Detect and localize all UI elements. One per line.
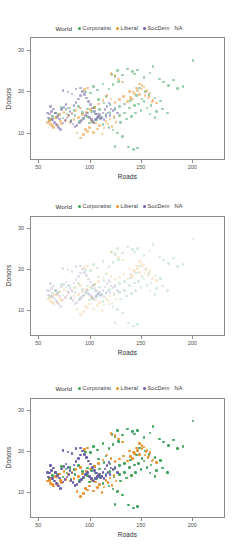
data-point-corporatist (112, 443, 115, 446)
data-point-socdem (80, 296, 83, 299)
data-point-liberal (132, 91, 135, 94)
legend-entry-corporatist[interactable]: Corporatist (78, 25, 111, 31)
data-point-liberal (107, 481, 110, 484)
data-point-corporatist (70, 296, 73, 299)
data-point-socdem (75, 88, 78, 91)
legend-entry-corporatist[interactable]: Corporatist (78, 203, 111, 209)
data-point-socdem (73, 104, 76, 107)
data-point-liberal (51, 301, 54, 304)
data-point-corporatist (121, 494, 124, 497)
data-point-corporatist (74, 291, 77, 294)
data-point-corporatist (94, 113, 97, 116)
legend-entry-label: SocDem (147, 25, 169, 31)
data-point-liberal (93, 465, 96, 468)
legend-entry-liberal[interactable]: Liberal (116, 25, 138, 31)
data-point-socdem (67, 451, 70, 454)
data-point-corporatist (116, 490, 119, 493)
data-point-corporatist (176, 87, 179, 90)
data-point-corporatist (69, 466, 72, 469)
data-point-corporatist (131, 430, 134, 433)
scatter-panel-2: WorldCorporatistLiberalSocDemNA102030501… (0, 185, 238, 365)
data-point-liberal (152, 99, 155, 102)
data-point-corporatist (111, 73, 114, 76)
data-point-liberal (117, 256, 120, 259)
data-point-corporatist (141, 457, 144, 460)
data-point-corporatist (82, 295, 85, 298)
data-point-corporatist (48, 477, 51, 480)
data-point-socdem (86, 112, 89, 115)
data-point-corporatist (136, 69, 139, 72)
data-point-socdem (81, 90, 84, 93)
data-point-corporatist (103, 461, 106, 464)
data-point-liberal (143, 86, 146, 89)
legend-entry-corporatist[interactable]: Corporatist (78, 385, 111, 391)
legend-entry-socdem[interactable]: SocDem (143, 385, 170, 391)
legend-entry-socdem[interactable]: SocDem (143, 203, 170, 209)
data-point-socdem (90, 118, 93, 121)
x-axis-tick-label: 200 (182, 340, 202, 346)
data-point-liberal (77, 116, 80, 119)
data-point-liberal (46, 121, 49, 124)
x-axis-tick-mark (38, 160, 39, 163)
data-point-corporatist (158, 256, 161, 259)
data-point-socdem (60, 108, 63, 111)
data-point-liberal (88, 303, 91, 306)
data-point-corporatist (73, 286, 76, 289)
data-point-corporatist (62, 294, 65, 297)
legend-entry-socdem[interactable]: SocDem (143, 25, 170, 31)
data-point-corporatist (112, 306, 115, 309)
data-point-liberal (86, 307, 89, 310)
data-point-corporatist (176, 447, 179, 450)
data-point-corporatist (94, 472, 97, 475)
data-point-corporatist (128, 107, 131, 110)
data-point-socdem (46, 471, 49, 474)
chart-legend: WorldCorporatistLiberalSocDemNA (0, 382, 238, 394)
data-point-liberal (79, 495, 82, 498)
data-point-corporatist (148, 93, 151, 96)
data-point-socdem (109, 114, 112, 117)
data-point-liberal (60, 299, 63, 302)
data-point-socdem (60, 286, 63, 289)
legend-swatch-icon (143, 387, 146, 390)
x-axis-tick-mark (141, 160, 142, 163)
data-point-corporatist (167, 444, 170, 447)
x-axis-tick-label: 50 (28, 522, 48, 528)
data-point-socdem (102, 112, 105, 115)
data-point-liberal (107, 299, 110, 302)
data-point-corporatist (96, 267, 99, 270)
data-point-corporatist (121, 135, 124, 138)
data-point-corporatist (161, 108, 164, 111)
data-point-liberal (83, 88, 86, 91)
data-point-liberal (107, 123, 110, 126)
legend-entry-liberal[interactable]: Liberal (116, 385, 138, 391)
data-point-liberal (109, 118, 112, 121)
data-point-socdem (58, 295, 61, 298)
data-point-liberal (113, 292, 116, 295)
data-point-corporatist (109, 470, 112, 473)
data-point-liberal (115, 121, 118, 124)
legend-entry-liberal[interactable]: Liberal (116, 203, 138, 209)
data-point-corporatist (102, 83, 105, 86)
data-point-liberal (58, 473, 61, 476)
data-point-corporatist (136, 323, 139, 326)
data-point-corporatist (118, 282, 121, 285)
data-point-socdem (62, 122, 65, 125)
data-point-socdem (47, 117, 50, 120)
data-point-socdem (69, 287, 72, 290)
data-point-corporatist (159, 459, 162, 462)
data-point-liberal (128, 90, 131, 93)
data-point-corporatist (137, 280, 140, 283)
data-point-socdem (49, 464, 52, 467)
data-point-liberal (81, 113, 84, 116)
data-point-liberal (69, 298, 72, 301)
data-point-liberal (114, 278, 117, 281)
data-point-liberal (88, 126, 91, 129)
data-point-corporatist (62, 117, 65, 120)
data-point-corporatist (48, 118, 51, 121)
data-point-liberal (84, 305, 87, 308)
data-point-corporatist (108, 126, 111, 129)
data-point-socdem (110, 285, 113, 288)
data-point-corporatist (91, 120, 94, 123)
data-point-socdem (88, 293, 91, 296)
data-point-corporatist (136, 429, 139, 432)
